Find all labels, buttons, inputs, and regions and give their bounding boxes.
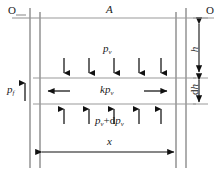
vapor-pressure-subscript: v bbox=[109, 48, 112, 55]
origin-label-left: O bbox=[8, 5, 16, 16]
pressure-element-diagram: O O A pv kpv pv+dpv pf h dh x bbox=[0, 0, 224, 174]
area-label: A bbox=[106, 4, 113, 15]
horizontal-distance-label: x bbox=[107, 136, 112, 147]
lateral-pressure-label: kpv bbox=[100, 84, 113, 97]
lateral-pressure-subscript: v bbox=[110, 89, 113, 96]
depth-label: h bbox=[189, 47, 200, 53]
bottom-pressure-subscript-2: v bbox=[121, 120, 124, 127]
thickness-base: h bbox=[188, 84, 200, 90]
thickness-label: dh bbox=[189, 84, 200, 95]
origin-label-right: O bbox=[206, 5, 214, 16]
fluid-pressure-label: pf bbox=[7, 84, 14, 97]
fluid-pressure-subscript: f bbox=[13, 89, 15, 96]
vapor-pressure-down-arrows bbox=[64, 58, 161, 73]
thickness-differential: d bbox=[188, 90, 200, 96]
vapor-pressure-label: pv bbox=[103, 43, 112, 56]
bottom-pressure-label: pv+dpv bbox=[95, 115, 124, 128]
